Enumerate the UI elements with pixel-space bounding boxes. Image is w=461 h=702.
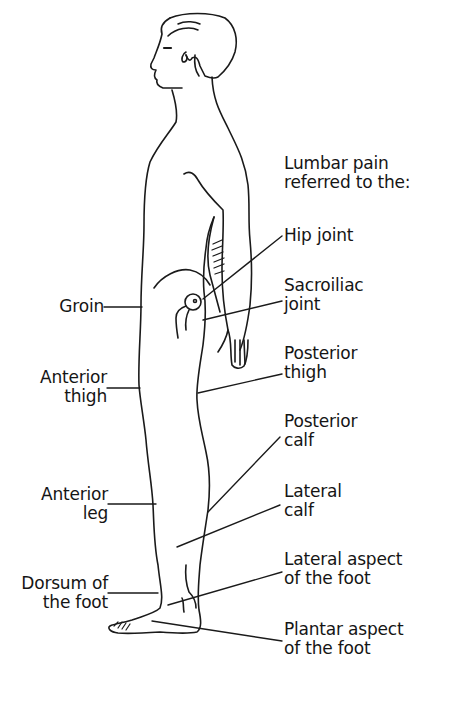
label-text: Lateral aspect [284, 550, 402, 569]
label-text: Anterior [40, 368, 107, 387]
label-text: of the foot [284, 639, 403, 658]
leader-lines [104, 236, 282, 641]
label-anterior-thigh: Anterior thigh [40, 368, 107, 406]
label-text: Sacroiliac [284, 276, 364, 295]
label-text: of the foot [284, 569, 402, 588]
label-text: leg [41, 504, 108, 523]
label-text: Plantar aspect [284, 620, 403, 639]
label-text: Lateral [284, 482, 342, 501]
label-text: joint [284, 295, 364, 314]
diagram-heading: Lumbar pain referred to the: [284, 154, 410, 192]
label-text: Dorsum of [21, 574, 108, 593]
label-dorsum-foot: Dorsum of the foot [21, 574, 108, 612]
label-text: the foot [21, 593, 108, 612]
label-text: thigh [40, 387, 107, 406]
label-text: thigh [284, 363, 357, 382]
label-text: calf [284, 431, 357, 450]
label-posterior-calf: Posterior calf [284, 412, 357, 450]
label-sacroiliac-joint: Sacroiliac joint [284, 276, 364, 314]
body-outline [109, 77, 252, 633]
label-text: Posterior [284, 412, 357, 431]
heading-line-1: Lumbar pain [284, 154, 410, 173]
label-text: Groin [59, 297, 104, 316]
label-lateral-aspect-foot: Lateral aspect of the foot [284, 550, 402, 588]
label-lateral-calf: Lateral calf [284, 482, 342, 520]
heading-line-2: referred to the: [284, 173, 410, 192]
label-text: calf [284, 501, 342, 520]
label-anterior-leg: Anterior leg [41, 485, 108, 523]
label-hip-joint: Hip joint [284, 226, 353, 245]
label-text: Hip joint [284, 226, 353, 245]
label-plantar-aspect-foot: Plantar aspect of the foot [284, 620, 403, 658]
label-text: Posterior [284, 344, 357, 363]
label-groin: Groin [59, 297, 104, 316]
head-outline [151, 14, 237, 89]
label-posterior-thigh: Posterior thigh [284, 344, 357, 382]
label-text: Anterior [41, 485, 108, 504]
